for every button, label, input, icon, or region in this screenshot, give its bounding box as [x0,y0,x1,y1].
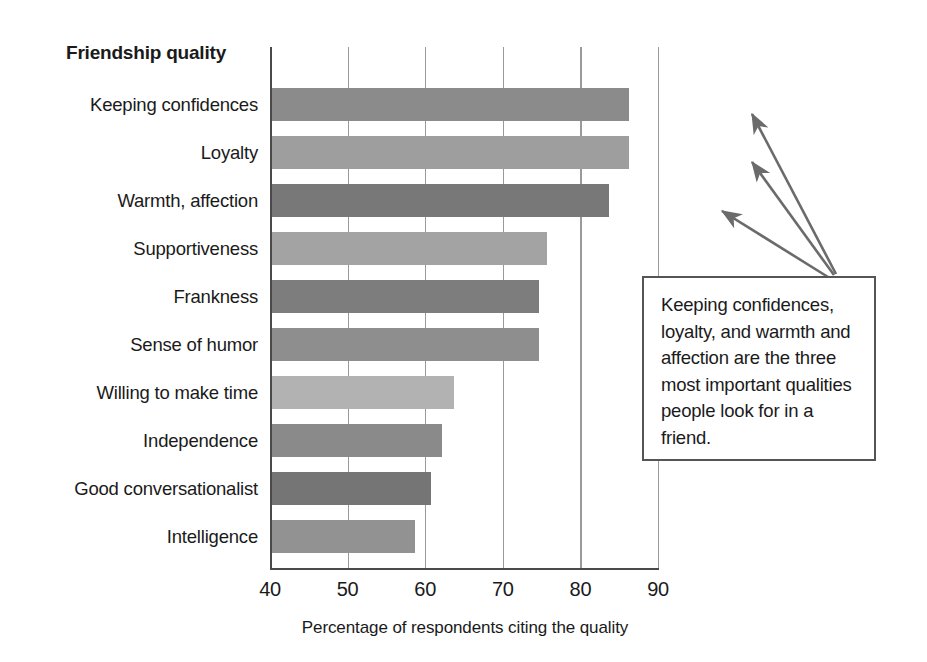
x-axis-title: Percentage of respondents citing the qua… [270,618,660,638]
bar-chart: Friendship quality Keeping confidencesLo… [0,0,927,662]
bar-keeping-confidences [272,88,629,121]
category-axis-labels: Keeping confidencesLoyaltyWarmth, affect… [0,47,258,570]
x-tick-40: 40 [240,578,300,601]
arrow-to-loyalty [752,162,834,275]
bar-frankness [272,280,540,313]
bar-willing-to-make-time [272,376,454,409]
annotation-callout-box: Keeping confidences, loyalty, and warmth… [642,276,876,461]
category-label-loyalty: Loyalty [0,136,258,169]
category-label-good-conversationalist: Good conversationalist [0,472,258,505]
bar-supportiveness [272,232,547,265]
category-label-warmth-affection: Warmth, affection [0,184,258,217]
x-tick-60: 60 [395,578,455,601]
x-tick-80: 80 [550,578,610,601]
category-label-sense-of-humor: Sense of humor [0,328,258,361]
bar-warmth-affection [272,184,610,217]
bar-intelligence [272,520,416,553]
category-label-frankness: Frankness [0,280,258,313]
arrow-to-keeping-confidences [752,114,836,274]
bar-good-conversationalist [272,472,431,505]
x-axis-line [270,568,659,570]
x-axis-tick-labels: 405060708090 [270,578,670,606]
gridline-80 [580,47,581,570]
plot-area [270,47,658,570]
annotation-callout-text: Keeping confidences, loyalty, and warmth… [661,292,861,451]
x-tick-70: 70 [473,578,533,601]
category-label-keeping-confidences: Keeping confidences [0,88,258,121]
bar-independence [272,424,443,457]
category-label-intelligence: Intelligence [0,520,258,553]
x-tick-50: 50 [318,578,378,601]
arrow-to-warmth-affection [722,211,828,277]
bar-loyalty [272,136,629,169]
category-label-willing-to-make-time: Willing to make time [0,376,258,409]
category-label-independence: Independence [0,424,258,457]
bar-sense-of-humor [272,328,540,361]
category-label-supportiveness: Supportiveness [0,232,258,265]
x-tick-90: 90 [628,578,688,601]
